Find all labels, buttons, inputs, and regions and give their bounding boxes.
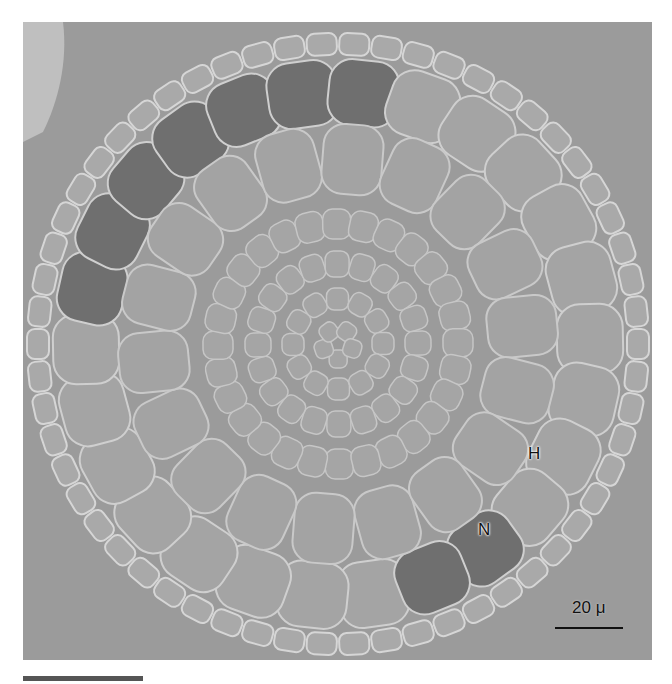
cell-label-n: N: [478, 520, 490, 540]
scale-bar-label: 20 μ: [572, 598, 605, 618]
scale-bar-line: [555, 627, 623, 629]
micrograph-image: H N 20 μ: [23, 22, 652, 660]
cell-label-h: H: [528, 444, 540, 464]
figure-bottom-bar: [23, 676, 143, 681]
root-cross-section: [23, 22, 652, 660]
